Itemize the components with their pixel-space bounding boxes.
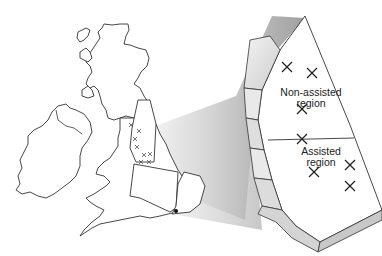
figure-canvas: Non-assisted region Assisted region [0, 0, 382, 256]
non-assisted-label-line2: region [296, 97, 325, 109]
inset-block [244, 16, 382, 252]
hebrides-outline [77, 28, 90, 42]
skye-outline [80, 48, 92, 62]
ireland-outline [16, 104, 92, 198]
mull-outline [82, 86, 94, 98]
london-dot-icon [174, 209, 178, 213]
assisted-label-line2: region [306, 156, 335, 168]
